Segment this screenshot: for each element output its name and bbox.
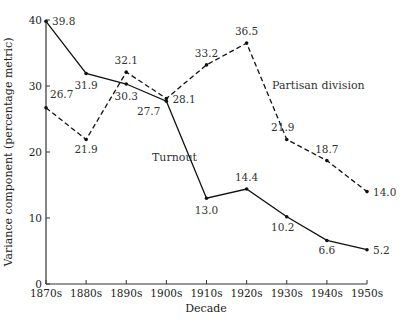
data-label: 32.1 xyxy=(115,54,138,66)
data-point xyxy=(84,138,88,142)
data-label: 39.8 xyxy=(52,15,75,27)
y-tick-label: 30 xyxy=(29,80,42,92)
data-label: 5.2 xyxy=(373,244,390,256)
y-tick-label: 20 xyxy=(29,146,42,158)
data-label: 10.2 xyxy=(271,221,294,233)
data-point xyxy=(325,159,329,163)
x-axis-title: Decade xyxy=(185,302,227,315)
data-label: 30.3 xyxy=(115,90,138,102)
data-point xyxy=(245,41,249,45)
data-point xyxy=(365,248,369,252)
y-axis-title: Variance component (percentage metric) xyxy=(2,37,15,267)
data-labels: 39.831.930.327.713.014.410.26.65.226.721… xyxy=(50,15,396,256)
data-point xyxy=(285,138,289,142)
data-point xyxy=(285,215,289,219)
data-point xyxy=(205,63,209,67)
data-point xyxy=(245,187,249,191)
data-label: 21.9 xyxy=(74,143,97,155)
data-label: 28.1 xyxy=(172,93,195,105)
x-tick-label: 1900s xyxy=(150,287,182,299)
x-tick-label: 1920s xyxy=(231,287,263,299)
data-label: 26.7 xyxy=(50,88,73,100)
series-label-turnout: Turnout xyxy=(152,151,197,164)
data-point xyxy=(365,190,369,194)
x-tick-label: 1940s xyxy=(311,287,343,299)
data-label: 27.7 xyxy=(137,105,160,117)
y-tick-label: 10 xyxy=(29,212,42,224)
data-label: 14.4 xyxy=(235,171,259,183)
x-tick-label: 1910s xyxy=(190,287,222,299)
x-tick-label: 1950s xyxy=(351,287,383,299)
data-point xyxy=(205,196,209,200)
data-point xyxy=(124,82,128,86)
x-tick-label: 1870s xyxy=(30,287,62,299)
data-point xyxy=(165,97,169,101)
data-label: 21.9 xyxy=(271,121,294,133)
data-label: 18.7 xyxy=(315,143,338,155)
data-point xyxy=(124,70,128,74)
data-label: 36.5 xyxy=(235,25,258,37)
series-label-partisan-division: Partisan division xyxy=(272,79,365,92)
y-tick-label: 40 xyxy=(29,14,42,26)
data-point xyxy=(84,72,88,76)
data-label: 13.0 xyxy=(195,204,218,216)
data-point xyxy=(44,20,48,24)
data-label: 33.2 xyxy=(195,47,218,59)
line-chart: 0102030401870s1880s1890s1900s1910s1920s1… xyxy=(0,0,406,327)
data-point xyxy=(44,106,48,110)
data-label: 6.6 xyxy=(319,244,336,256)
x-tick-label: 1880s xyxy=(70,287,102,299)
data-label: 14.0 xyxy=(373,186,396,198)
data-point xyxy=(325,239,329,243)
data-label: 31.9 xyxy=(74,79,97,91)
x-tick-label: 1890s xyxy=(110,287,142,299)
x-tick-label: 1930s xyxy=(271,287,303,299)
